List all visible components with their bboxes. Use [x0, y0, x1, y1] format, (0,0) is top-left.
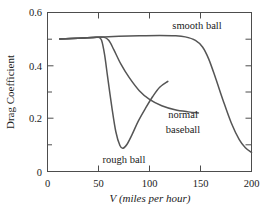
chart-canvas: 0.6 0.4 0.2 0 0 50 100 150 200 V (miles …	[0, 0, 263, 208]
annotation-normal-line1: normal	[168, 109, 198, 120]
curve-smooth-ball	[60, 36, 252, 153]
x-axis-label: V (miles per hour)	[110, 192, 191, 205]
drag-coefficient-chart: 0.6 0.4 0.2 0 0 50 100 150 200 V (miles …	[0, 0, 263, 208]
curve-normal-baseball	[60, 37, 199, 113]
annotation-smooth-ball: smooth ball	[172, 20, 221, 31]
y-tick-label-0.4: 0.4	[29, 61, 43, 72]
y-axis-label: Drag Coefficient	[4, 55, 16, 129]
x-tick-label-100: 100	[142, 178, 158, 189]
annotation-rough-ball: rough ball	[103, 154, 146, 165]
x-tick-label-150: 150	[193, 178, 209, 189]
x-tick-label-0: 0	[45, 178, 50, 189]
curve-rough-ball	[60, 37, 168, 148]
x-tick-label-50: 50	[93, 178, 104, 189]
y-tick-label-0.6: 0.6	[29, 7, 42, 18]
y-tick-label-0.2: 0.2	[29, 113, 42, 124]
x-axis-top-ticks	[99, 13, 201, 19]
x-tick-label-200: 200	[244, 178, 260, 189]
x-axis-major-ticks	[48, 166, 252, 172]
y-axis-minor-ticks	[48, 39, 53, 145]
annotation-baseball-line2: baseball	[166, 124, 200, 135]
y-tick-label-0: 0	[37, 167, 42, 178]
y-axis-right-ticks	[246, 39, 252, 145]
